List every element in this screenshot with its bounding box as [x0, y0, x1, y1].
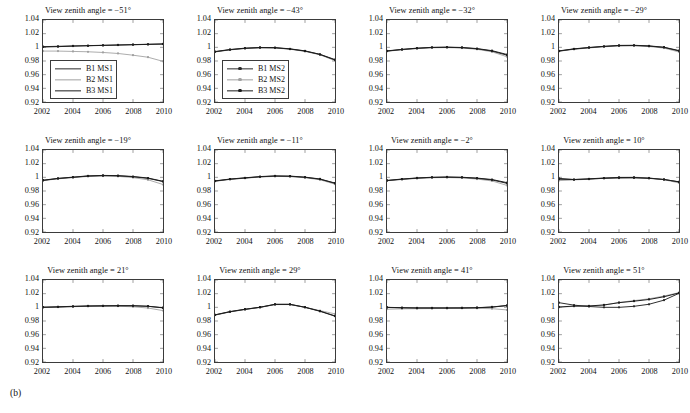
x-tick-label: 2002	[378, 108, 394, 116]
y-axis-ticks: 0.920.940.960.9811.021.04	[346, 149, 383, 233]
x-axis-ticks: 20022004200620082010	[386, 106, 508, 120]
chart-panel--19: View zenith angle = −19°0.920.940.960.98…	[2, 132, 174, 262]
y-tick-label: 0.96	[347, 201, 383, 209]
y-tick-label: 1.04	[3, 145, 39, 153]
data-point	[334, 313, 335, 315]
y-axis-ticks: 0.920.940.960.9811.021.04	[2, 279, 39, 363]
x-tick-label: 2010	[672, 108, 688, 116]
legend-item: B1 MS1	[54, 63, 113, 74]
legend-swatch-icon	[54, 86, 82, 96]
x-tick-label: 2004	[580, 368, 596, 376]
y-tick-label: 1	[175, 173, 211, 181]
legend: B1 MS2B2 MS2B3 MS2	[222, 60, 289, 99]
data-point	[663, 299, 665, 301]
data-point	[603, 306, 605, 308]
x-tick-label: 2004	[580, 108, 596, 116]
data-point	[648, 298, 650, 300]
legend-item: B2 MS2	[226, 74, 285, 85]
y-tick-label: 1	[347, 43, 383, 51]
y-tick-label: 0.98	[175, 317, 211, 325]
y-tick-label: 0.94	[347, 345, 383, 353]
chart-panel-21: View zenith angle = 21°0.920.940.960.981…	[2, 262, 174, 392]
data-point	[304, 176, 306, 178]
data-point	[132, 175, 134, 177]
data-point	[319, 53, 321, 55]
y-tick-label: 0.98	[519, 57, 555, 65]
data-point	[633, 44, 635, 46]
legend-label: B1 MS2	[254, 65, 285, 73]
x-tick-label: 2004	[64, 238, 80, 246]
data-point	[102, 305, 104, 307]
data-point	[117, 52, 119, 54]
x-tick-label: 2002	[34, 238, 50, 246]
data-point	[491, 50, 493, 52]
x-tick-label: 2006	[95, 108, 111, 116]
data-point	[618, 176, 620, 178]
data-point	[476, 307, 478, 309]
y-tick-label: 1.04	[347, 145, 383, 153]
x-tick-label: 2008	[125, 238, 141, 246]
y-tick-label: 1.04	[347, 15, 383, 23]
x-tick-label: 2002	[206, 238, 222, 246]
y-tick-label: 0.94	[175, 85, 211, 93]
data-point	[117, 175, 119, 177]
y-tick-label: 1.04	[175, 15, 211, 23]
data-point	[559, 302, 560, 304]
y-tick-label: 1	[3, 303, 39, 311]
plot-area	[558, 279, 680, 363]
x-tick-label: 2004	[236, 368, 252, 376]
series-line	[559, 293, 679, 307]
x-tick-label: 2010	[328, 368, 344, 376]
legend-item: B1 MS2	[226, 63, 285, 74]
plot-area	[42, 149, 164, 233]
data-point	[72, 305, 74, 307]
x-axis-ticks: 20022004200620082010	[214, 106, 336, 120]
x-tick-label: 2008	[125, 108, 141, 116]
y-tick-label: 1.02	[3, 289, 39, 297]
legend-swatch-icon	[54, 75, 82, 85]
data-point	[387, 306, 388, 308]
data-point	[57, 50, 59, 52]
plot-area	[214, 149, 336, 233]
y-tick-label: 0.94	[3, 85, 39, 93]
y-tick-label: 0.96	[347, 331, 383, 339]
data-point	[461, 307, 463, 309]
data-point	[289, 303, 291, 305]
legend-label: B2 MS1	[82, 76, 113, 84]
legend-label: B3 MS2	[254, 87, 285, 95]
data-point	[401, 178, 403, 180]
data-point	[416, 307, 418, 309]
x-tick-label: 2010	[156, 368, 172, 376]
legend-swatch-icon	[226, 86, 254, 96]
y-axis-ticks: 0.920.940.960.9811.021.04	[174, 19, 211, 103]
data-point	[147, 305, 149, 307]
y-tick-label: 0.92	[347, 99, 383, 107]
x-axis-ticks: 20022004200620082010	[386, 236, 508, 250]
y-tick-label: 0.92	[519, 359, 555, 367]
data-point	[72, 45, 74, 47]
y-tick-label: 0.92	[175, 359, 211, 367]
x-tick-label: 2010	[672, 368, 688, 376]
data-point	[431, 307, 433, 309]
y-tick-label: 1.02	[519, 289, 555, 297]
y-tick-label: 0.94	[3, 215, 39, 223]
x-tick-label: 2008	[297, 238, 313, 246]
y-tick-label: 0.98	[3, 187, 39, 195]
y-tick-label: 1.02	[3, 29, 39, 37]
data-point	[491, 178, 493, 180]
y-tick-label: 0.96	[519, 201, 555, 209]
series-line	[215, 47, 335, 59]
data-point	[229, 48, 231, 50]
data-point	[162, 309, 163, 311]
data-point	[244, 47, 246, 49]
data-point	[132, 305, 134, 307]
x-tick-label: 2004	[408, 368, 424, 376]
data-point	[663, 178, 665, 180]
y-axis-ticks: 0.920.940.960.9811.021.04	[2, 19, 39, 103]
y-tick-label: 0.94	[175, 345, 211, 353]
data-point	[633, 300, 635, 302]
data-point	[401, 48, 403, 50]
data-point	[162, 60, 163, 62]
data-point	[87, 175, 89, 177]
x-tick-label: 2004	[64, 108, 80, 116]
